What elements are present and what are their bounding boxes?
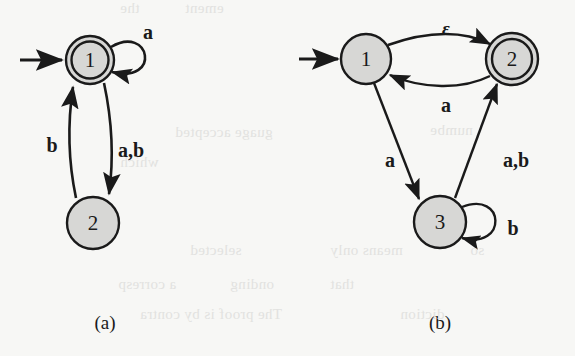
state-b1[interactable]: 1 — [341, 34, 391, 84]
state-b2[interactable]: 2 — [486, 33, 538, 85]
transition-a2-to-a1-b — [70, 87, 76, 198]
transition-b1-to-b3-a — [374, 83, 419, 199]
automaton-b: 1 2 3 ε a a a,b b (b) — [299, 18, 538, 334]
transition-label-b-epsilon: ε — [442, 18, 450, 39]
transition-label-a-ab: a,b — [118, 139, 144, 161]
state-b2-label: 2 — [507, 47, 518, 71]
transition-label-b-self: b — [507, 217, 518, 239]
state-a2-label: 2 — [88, 211, 99, 235]
automaton-a: 1 2 a b a,b (a) — [20, 21, 153, 334]
state-a2[interactable]: 2 — [67, 197, 119, 249]
state-b3-label: 3 — [435, 210, 446, 234]
caption-a: (a) — [94, 312, 115, 334]
state-a1-label: 1 — [85, 48, 96, 72]
transition-a1-to-a2-ab — [104, 83, 112, 194]
figure-container: the ement guage accepted numbe which sel… — [0, 0, 575, 356]
transition-label-b-ab: a,b — [503, 149, 529, 171]
state-b3[interactable]: 3 — [414, 196, 466, 248]
transition-b3-to-b2-ab — [455, 84, 497, 198]
transition-b1-to-b2-epsilon — [388, 34, 490, 45]
state-a1[interactable]: 1 — [66, 36, 114, 84]
transition-label-b-a-down: a — [385, 149, 395, 171]
caption-b: (b) — [429, 312, 451, 334]
state-diagram-svg: 1 2 a b a,b (a) — [0, 0, 575, 356]
transition-label-a-b: b — [46, 134, 57, 156]
transition-label-b-a-back: a — [441, 94, 451, 116]
state-b1-label: 1 — [361, 47, 372, 71]
transition-a1-self-a — [111, 42, 145, 74]
transition-label-a-self: a — [143, 21, 153, 43]
transition-b2-to-b1-a — [390, 75, 490, 86]
